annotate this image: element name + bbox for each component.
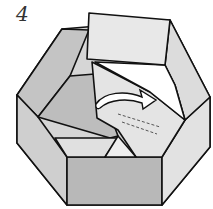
wall-front [67,157,162,205]
octagon-box-diagram [0,0,213,209]
raised-flap [87,13,170,65]
